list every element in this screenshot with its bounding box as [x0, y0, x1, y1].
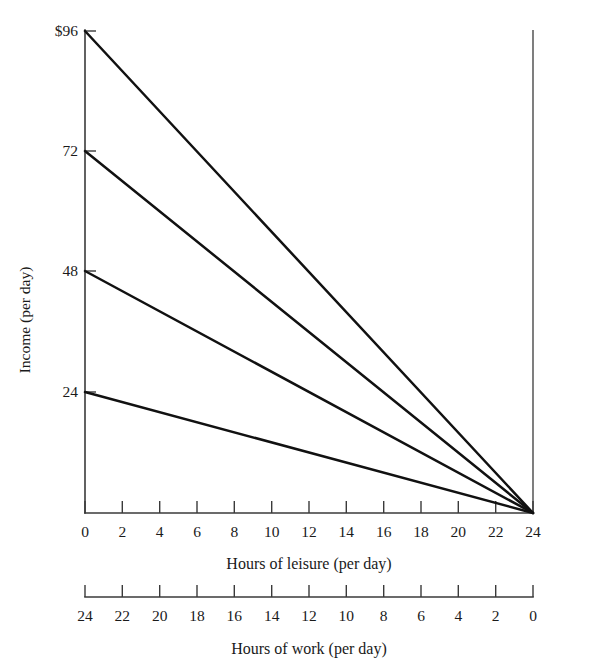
y-tick-label-24: 24 — [63, 383, 79, 400]
x-axis-title-leisure: Hours of leisure (per day) — [226, 555, 391, 573]
work-tick-label-0: 0 — [529, 607, 537, 624]
x-tick-label-4: 4 — [156, 523, 164, 540]
x-axis-ticks-work — [85, 585, 533, 597]
budget-line-wage-4 — [85, 31, 533, 513]
x-tick-label-18: 18 — [413, 523, 429, 540]
x-tick-label-24: 24 — [525, 523, 541, 540]
x-tick-label-10: 10 — [264, 523, 280, 540]
work-tick-label-22: 22 — [115, 607, 131, 624]
y-tick-label-96: $96 — [55, 22, 79, 39]
work-tick-label-8: 8 — [380, 607, 388, 624]
x-tick-label-8: 8 — [230, 523, 238, 540]
budget-line-wage-1 — [85, 392, 533, 513]
x-tick-label-12: 12 — [301, 523, 317, 540]
x-tick-label-6: 6 — [193, 523, 201, 540]
y-tick-label-72: 72 — [63, 142, 79, 159]
work-tick-label-20: 20 — [152, 607, 168, 624]
x-axis-tick-labels-leisure: 0 2 4 6 8 10 12 14 16 18 20 22 24 — [81, 523, 541, 540]
x-axis-title-work: Hours of work (per day) — [231, 640, 387, 658]
budget-line-wage-2 — [85, 271, 533, 513]
work-tick-label-2: 2 — [492, 607, 500, 624]
budget-lines-group — [85, 31, 533, 513]
x-tick-label-14: 14 — [339, 523, 355, 540]
x-tick-label-0: 0 — [81, 523, 89, 540]
x-axis-tick-labels-work: 24 22 20 18 16 14 12 10 8 6 4 2 0 — [77, 607, 537, 624]
work-tick-label-24: 24 — [77, 607, 93, 624]
chart-canvas: 24 48 72 $96 Income (per day) 0 2 4 — [0, 0, 590, 668]
work-tick-label-4: 4 — [454, 607, 462, 624]
work-tick-label-16: 16 — [227, 607, 243, 624]
work-tick-label-6: 6 — [417, 607, 425, 624]
y-axis-title: Income (per day) — [16, 267, 34, 374]
y-tick-label-48: 48 — [63, 262, 79, 279]
x-tick-label-20: 20 — [451, 523, 467, 540]
y-axis-ticks — [85, 31, 96, 392]
budget-line-wage-3 — [85, 151, 533, 513]
budget-constraint-chart: 24 48 72 $96 Income (per day) 0 2 4 — [0, 0, 590, 668]
work-tick-label-10: 10 — [339, 607, 355, 624]
x-axis-ticks-leisure — [85, 501, 533, 513]
x-tick-label-22: 22 — [488, 523, 504, 540]
x-tick-label-16: 16 — [376, 523, 392, 540]
work-tick-label-12: 12 — [301, 607, 317, 624]
x-tick-label-2: 2 — [118, 523, 126, 540]
work-tick-label-14: 14 — [264, 607, 280, 624]
work-tick-label-18: 18 — [189, 607, 205, 624]
